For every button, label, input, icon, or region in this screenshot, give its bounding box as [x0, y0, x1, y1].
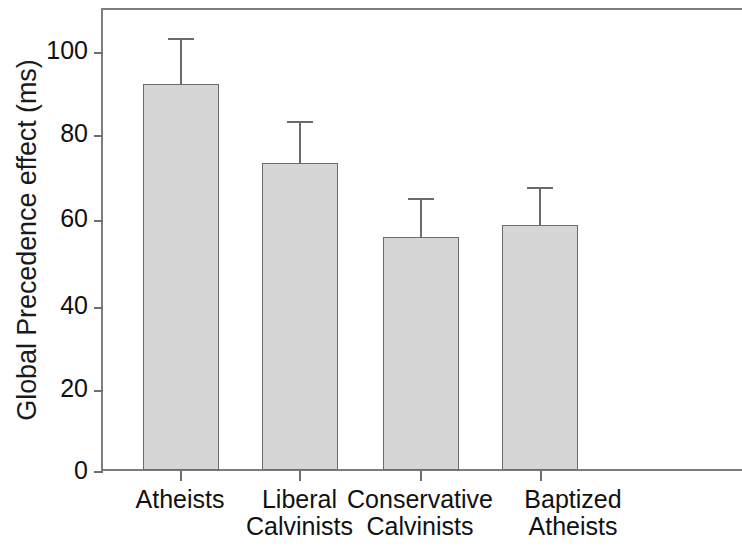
bar-conservative-calvinists	[383, 237, 459, 470]
x-axis-label-baptized-atheists-line1: Baptized	[524, 485, 621, 513]
error-bar-line-atheists	[180, 38, 182, 84]
y-tick-label-100: 100	[26, 38, 88, 63]
error-bar-cap-atheists	[168, 38, 194, 40]
y-tick-mark-0	[94, 471, 103, 473]
x-axis-label-conservative-calvinists: Conservative Calvinists	[338, 486, 502, 540]
x-axis-label-conservative-calvinists-line1: Conservative	[347, 485, 493, 513]
x-tick-mark-liberal-calvinists	[299, 471, 301, 481]
y-tick-mark-40	[94, 307, 103, 309]
x-tick-mark-conservative-calvinists	[420, 471, 422, 481]
x-axis-label-liberal-calvinists-line1: Liberal	[262, 485, 337, 513]
error-bar-line-baptized-atheists	[539, 187, 541, 224]
error-bar-cap-baptized-atheists	[527, 187, 553, 189]
bar-baptized-atheists	[502, 225, 578, 470]
y-tick-label-80: 80	[26, 121, 88, 146]
y-tick-label-40: 40	[26, 293, 88, 318]
x-tick-mark-atheists	[180, 471, 182, 481]
x-axis-label-atheists-line1: Atheists	[136, 485, 225, 513]
y-tick-label-20: 20	[26, 376, 88, 401]
y-tick-mark-60	[94, 220, 103, 222]
x-tick-mark-baptized-atheists	[540, 471, 542, 481]
y-tick-label-60: 60	[26, 206, 88, 231]
y-axis-tick-labels: 100 80 60 40 20 0	[26, 0, 88, 547]
y-tick-mark-80	[94, 135, 103, 137]
bar-chart-figure: Global Precedence effect (ms) 100 80 60 …	[0, 0, 742, 547]
bar-liberal-calvinists	[262, 163, 338, 470]
y-tick-label-0: 0	[26, 458, 88, 483]
y-tick-mark-20	[94, 390, 103, 392]
error-bar-line-liberal-calvinists	[299, 121, 301, 163]
x-axis-label-baptized-atheists-line2: Atheists	[500, 513, 646, 540]
y-tick-mark-100	[94, 52, 103, 54]
error-bar-cap-liberal-calvinists	[287, 121, 313, 123]
x-axis-label-baptized-atheists: Baptized Atheists	[500, 486, 646, 540]
bar-atheists	[143, 84, 219, 470]
error-bar-cap-conservative-calvinists	[408, 198, 434, 200]
x-axis-label-conservative-calvinists-line2: Calvinists	[338, 513, 502, 540]
error-bar-line-conservative-calvinists	[420, 198, 422, 237]
